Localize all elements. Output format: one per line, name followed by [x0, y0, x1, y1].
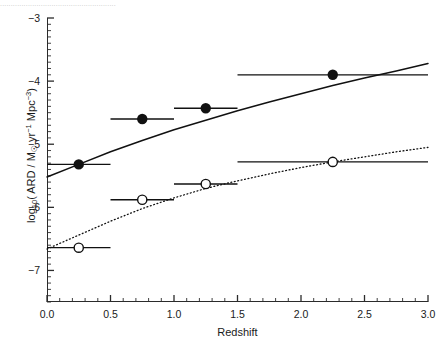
fit-curves	[47, 63, 428, 249]
y-axis-title-mpc: Mpc	[25, 100, 37, 124]
open-circles-point[interactable]	[74, 243, 83, 252]
x-tick-label: 2.0	[294, 308, 309, 320]
y-axis-title-yr: yr	[25, 133, 37, 145]
y-axis-ticks	[47, 18, 54, 302]
x-tick-label: 3.0	[421, 308, 436, 320]
y-axis-title-open: ( ARD / M	[25, 152, 37, 200]
x-tick-label: 1.5	[230, 308, 245, 320]
filled-circles-point[interactable]	[201, 103, 211, 113]
open-circles-point[interactable]	[201, 179, 210, 188]
filled-circles-point[interactable]	[328, 70, 338, 80]
filled-circles-point[interactable]	[137, 114, 147, 124]
x-tick-label: 0.0	[40, 308, 55, 320]
open-circles-point[interactable]	[328, 157, 337, 166]
x-axis-ticks	[47, 295, 428, 302]
y-axis-title-close: )	[25, 88, 37, 92]
x-tick-label: 1.0	[167, 308, 182, 320]
y-axis-title-yr-exp: −1	[24, 124, 33, 133]
figure-container: ........................................…	[0, 0, 444, 347]
y-axis-title-log: log	[25, 208, 37, 223]
open-circles-point[interactable]	[138, 195, 147, 204]
error-bars	[47, 75, 428, 248]
data-markers	[74, 70, 338, 253]
y-axis-title-mpc-exp: −3	[24, 92, 33, 101]
solar-mass-symbol-icon: ☉	[30, 145, 39, 152]
filled-circles-fit-curve	[47, 63, 428, 177]
open-circles-fit-curve	[47, 147, 428, 249]
plot-canvas	[0, 0, 444, 347]
x-tick-label: 2.5	[357, 308, 372, 320]
y-axis-title-log-sub: 10	[30, 200, 39, 208]
filled-circles-point[interactable]	[74, 159, 84, 169]
x-tick-label: 0.5	[103, 308, 118, 320]
y-tick-label: −3	[16, 12, 40, 24]
y-axis-title: log10( ARD / M☉ yr−1 Mpc−3)	[24, 61, 39, 251]
x-axis-title: Redshift	[47, 326, 428, 338]
y-tick-label: −7	[16, 264, 40, 276]
